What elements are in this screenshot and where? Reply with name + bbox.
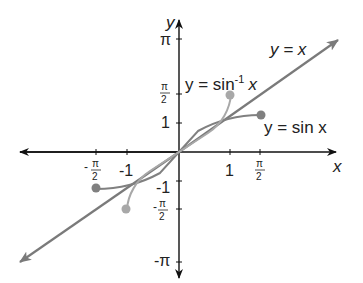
- x-axis-label: x: [332, 157, 342, 176]
- y-tick-pi2-den: 2: [161, 94, 167, 105]
- endpoint-arcsin-bottom: [122, 205, 131, 214]
- x-tick-negpi2-num: π: [92, 158, 99, 169]
- chart: y x π π 2 1 -1 - π 2 -π - π 2 -1 1 π 2 y…: [0, 0, 363, 283]
- y-tick-1: 1: [161, 114, 170, 131]
- x-tick-pi2-den: 2: [256, 171, 262, 182]
- x-tick-pi2-num: π: [256, 158, 263, 169]
- label-y-equals-x: y = x: [269, 40, 307, 59]
- label-arcsin-sup: -1: [235, 73, 245, 85]
- y-tick-negpi2-num: π: [159, 198, 166, 209]
- endpoint-sin-left: [92, 184, 101, 193]
- x-tick-neg1: -1: [119, 162, 133, 179]
- y-tick-negpi2-den: 2: [159, 211, 165, 222]
- label-arcsin-prefix: y = sin: [185, 75, 235, 94]
- label-arcsin: y = sin-1x: [185, 73, 257, 94]
- y-tick-negpi2-sign: -: [153, 200, 157, 214]
- y-tick-neg1: -1: [156, 179, 170, 196]
- x-tick-negpi2-sign: -: [84, 160, 88, 174]
- y-tick-pi2-num: π: [161, 81, 168, 92]
- y-tick-pi: π: [160, 31, 171, 48]
- x-tick-negpi2-den: 2: [92, 171, 98, 182]
- label-arcsin-suffix: x: [247, 75, 257, 94]
- y-axis-label: y: [165, 13, 176, 32]
- y-tick-neg-pi: -π: [154, 252, 170, 269]
- x-tick-1: 1: [225, 162, 234, 179]
- label-sin: y = sin x: [264, 118, 327, 137]
